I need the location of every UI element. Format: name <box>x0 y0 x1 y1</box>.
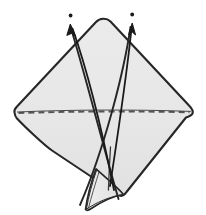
origami-diagram-figure: Origami folding step diagram <box>0 0 206 215</box>
origami-illustration: Origami folding step diagram <box>0 0 206 215</box>
right-arrow-tip-dot <box>130 13 134 17</box>
left-arrow-tip-dot <box>69 14 73 18</box>
